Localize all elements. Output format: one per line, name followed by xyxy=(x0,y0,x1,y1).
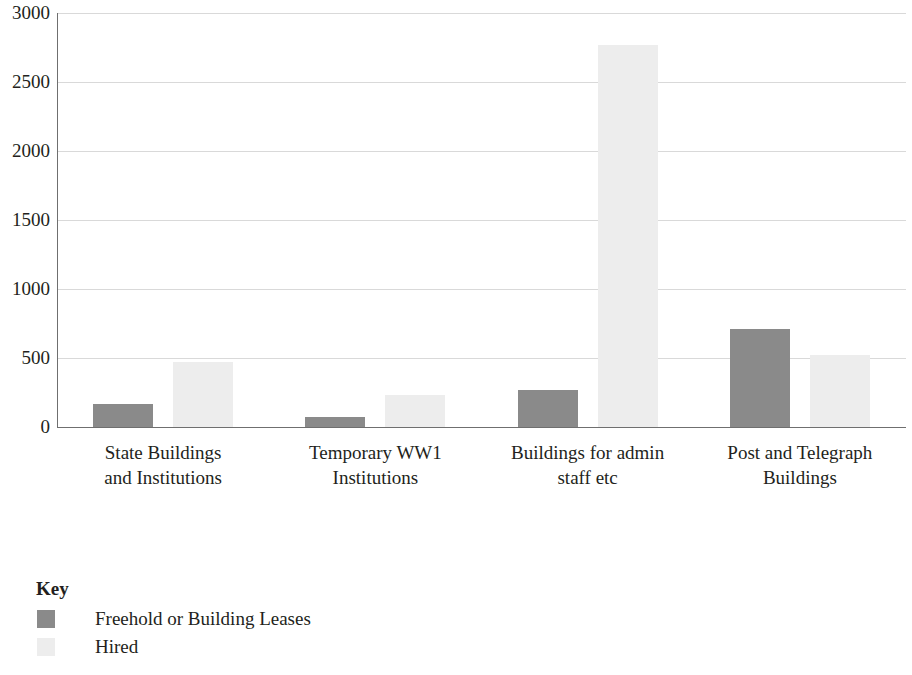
bar-freehold xyxy=(730,329,790,427)
legend-items: Freehold or Building LeasesHired xyxy=(36,606,536,662)
x-axis-category-label-line: Post and Telegraph xyxy=(694,440,906,465)
y-axis-tick-label: 1000 xyxy=(0,279,50,298)
x-axis-category-label-line: Temporary WW1 xyxy=(269,440,481,465)
bar-freehold xyxy=(305,417,365,427)
legend-swatch-freehold xyxy=(37,610,55,628)
y-axis-tick-label: 1500 xyxy=(0,210,50,229)
x-axis-category-label: Buildings for adminstaff etc xyxy=(482,440,694,490)
bars-layer xyxy=(57,13,906,427)
bar-hired xyxy=(385,395,445,427)
y-axis-tick-label: 2000 xyxy=(0,141,50,160)
x-axis-category-label: State Buildingsand Institutions xyxy=(57,440,269,490)
x-axis-category-label-line: staff etc xyxy=(482,465,694,490)
x-axis-category-label: Post and TelegraphBuildings xyxy=(694,440,906,490)
x-axis-category-label-line: Buildings xyxy=(694,465,906,490)
bar-hired xyxy=(598,45,658,427)
x-axis-category-label: Temporary WW1Institutions xyxy=(269,440,481,490)
x-axis-line xyxy=(57,427,906,428)
x-axis-category-labels: State Buildingsand InstitutionsTemporary… xyxy=(57,440,906,496)
y-axis-tick-label: 500 xyxy=(0,348,50,367)
x-axis-category-label-line: and Institutions xyxy=(57,465,269,490)
legend-item: Freehold or Building Leases xyxy=(36,606,536,634)
legend-title: Key xyxy=(36,578,536,600)
legend-label: Hired xyxy=(95,634,138,660)
chart-legend: Key Freehold or Building LeasesHired xyxy=(36,578,536,662)
bar-freehold xyxy=(518,390,578,427)
bar-chart-figure: 050010001500200025003000 State Buildings… xyxy=(0,0,912,675)
legend-swatch-hired xyxy=(37,638,55,656)
legend-item: Hired xyxy=(36,634,536,662)
legend-label: Freehold or Building Leases xyxy=(95,606,311,632)
bar-hired xyxy=(810,355,870,427)
y-axis-tick-label: 0 xyxy=(0,417,50,436)
x-axis-category-label-line: State Buildings xyxy=(57,440,269,465)
bar-hired xyxy=(173,362,233,427)
x-axis-category-label-line: Institutions xyxy=(269,465,481,490)
y-axis-tick-label: 3000 xyxy=(0,3,50,22)
x-axis-category-label-line: Buildings for admin xyxy=(482,440,694,465)
bar-freehold xyxy=(93,404,153,427)
y-axis-tick-label: 2500 xyxy=(0,72,50,91)
